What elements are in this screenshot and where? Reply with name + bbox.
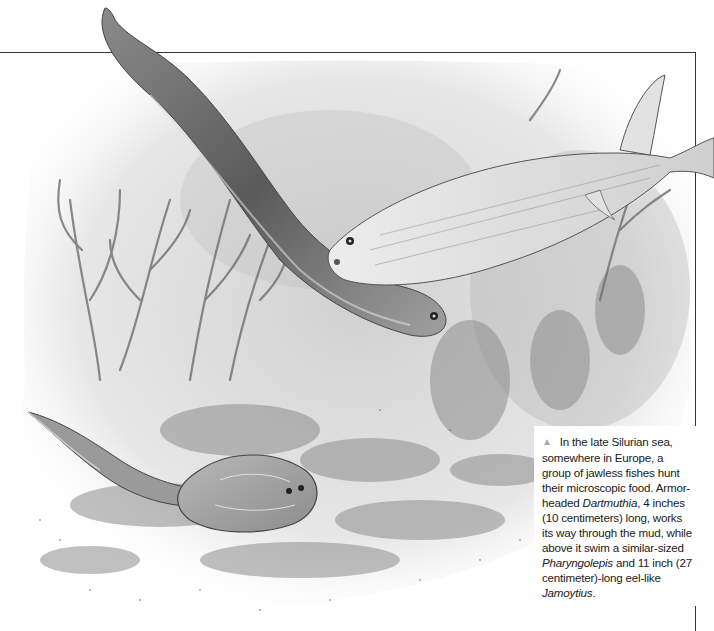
figure-caption: ▲In the late Silurian sea, somewhere in … [534, 426, 696, 606]
caption-taxon-jamoytius: Jamoytius [542, 586, 592, 599]
triangle-marker-icon: ▲ [542, 434, 552, 449]
caption-taxon-dartmuthia: Dartmuthia [583, 496, 638, 509]
caption-taxon-pharyngolepis: Pharyngolepis [542, 556, 613, 569]
caption-text-part4: . [592, 586, 595, 599]
